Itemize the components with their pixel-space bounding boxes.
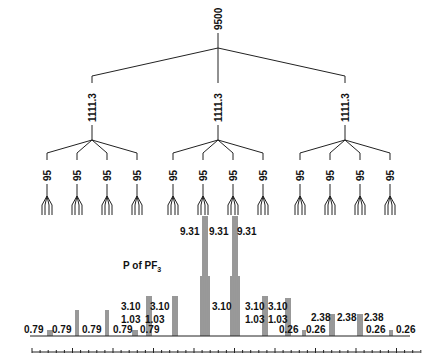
level3-coupling-label: 95	[325, 169, 336, 181]
level2-coupling-label: 1111.3	[340, 93, 351, 122]
root-node: 9500	[92, 7, 345, 76]
peak-label-0-79: 0.79	[140, 324, 160, 335]
level3-leaf: 95	[355, 153, 366, 215]
level3-coupling-label: 95	[295, 169, 306, 181]
peak-label-9-31: 9.31	[180, 226, 200, 237]
level3-coupling-label: 95	[385, 169, 396, 181]
peak-label-9-31: 9.31	[209, 226, 229, 237]
level3-leaf: 95	[102, 153, 113, 215]
level3-coupling-label: 95	[198, 169, 209, 181]
level3-coupling-label: 95	[42, 169, 53, 181]
level3-coupling-label: 95	[132, 169, 143, 181]
level2-coupling-label: 1111.3	[213, 93, 224, 122]
level2-branch-right: 1111.3	[300, 76, 390, 153]
peak-label-3-10: 3.10	[268, 301, 288, 312]
level3-coupling-label: 95	[258, 169, 269, 181]
level3-leaf: 95	[42, 153, 53, 215]
level3-coupling-label: 95	[355, 169, 366, 181]
level3-leaf: 95	[132, 153, 143, 215]
nmr-splitting-tree-diagram: 9500 1111.3 1111.3 1111.3 95959595959595…	[0, 0, 436, 362]
peak-label-0-26: 0.26	[306, 324, 326, 335]
peak-label-3-10: 3.10	[150, 301, 170, 312]
peak-label-3-10: 3.10	[245, 301, 265, 312]
level2-branch-left: 1111.3	[47, 76, 137, 153]
level2-branch-center: 1111.3	[173, 76, 263, 153]
level3-coupling-label: 95	[102, 169, 113, 181]
peak-label-9-31: 9.31	[237, 226, 257, 237]
peak-label-0-79: 0.79	[52, 324, 72, 335]
root-coupling-label: 9500	[213, 7, 224, 30]
peak-label-2-38: 2.38	[337, 312, 357, 323]
peak-label-0-26: 0.26	[396, 324, 416, 335]
peak-label-3-10: 3.10	[212, 301, 232, 312]
level3-leaf: 95	[325, 153, 336, 215]
peak-label-0-79: 0.79	[82, 324, 102, 335]
level3-coupling-label: 95	[228, 169, 239, 181]
level3-leaf: 95	[198, 153, 209, 215]
peak-label-3-10: 3.10	[121, 301, 141, 312]
peak-label-2-38: 2.38	[311, 312, 331, 323]
level3-leaf: 95	[385, 153, 396, 215]
peak-label-1-03: 1.03	[245, 314, 265, 325]
level3-leaf: 95	[168, 153, 179, 215]
peak-label-0-79: 0.79	[113, 324, 133, 335]
level3-leaf: 95	[295, 153, 306, 215]
peak-label-0-26: 0.26	[279, 324, 299, 335]
scale-axis	[32, 348, 421, 353]
peak-label-2-38: 2.38	[364, 312, 384, 323]
level3-leaf: 95	[228, 153, 239, 215]
peak-labels: 9.31 9.31 9.31 3.10 3.10 3.10 3.10 3.10 …	[24, 226, 416, 335]
level3-leaves: 959595959595959595959595	[42, 153, 396, 215]
level3-coupling-label: 95	[72, 169, 83, 181]
level2-coupling-label: 1111.3	[87, 93, 98, 122]
peak-label-0-79: 0.79	[24, 324, 44, 335]
peak-label-0-26: 0.26	[366, 324, 386, 335]
level3-leaf: 95	[258, 153, 269, 215]
level3-leaf: 95	[72, 153, 83, 215]
nucleus-label: P of PF3	[123, 260, 161, 273]
level3-coupling-label: 95	[168, 169, 179, 181]
